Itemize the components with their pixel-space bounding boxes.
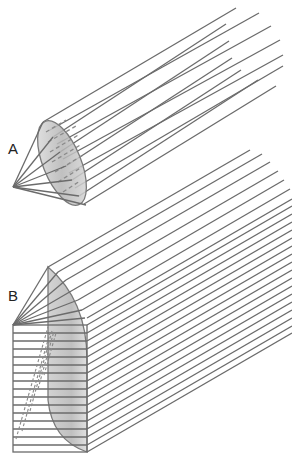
figure-a	[13, 8, 283, 212]
panel-label-b: B	[8, 287, 18, 304]
panel-label-a: A	[8, 140, 18, 157]
half-dome	[48, 267, 87, 452]
figure-b	[13, 150, 292, 452]
ray-diagram	[0, 0, 292, 459]
